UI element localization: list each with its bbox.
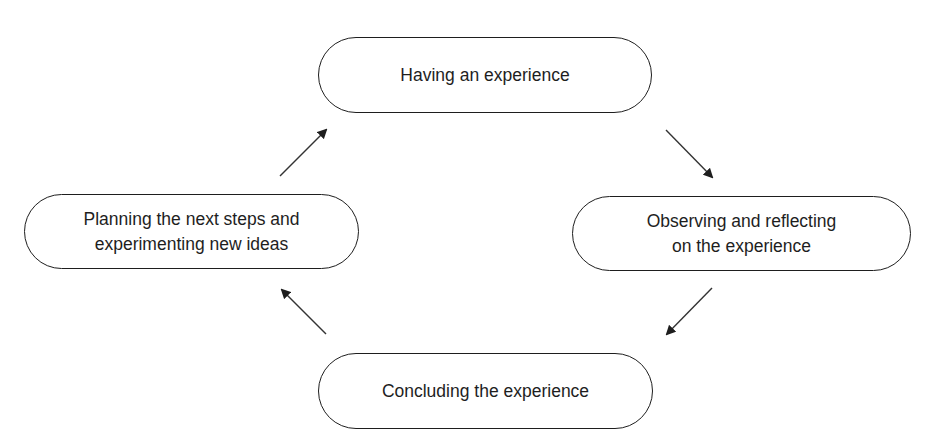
arrow-right-to-bottom: [667, 288, 712, 334]
arrow-top-to-right: [666, 130, 712, 177]
node-having-experience: Having an experience: [318, 37, 652, 113]
node-label: Concluding the experience: [382, 379, 589, 404]
node-concluding-experience: Concluding the experience: [318, 353, 653, 429]
arrow-bottom-to-left: [282, 290, 326, 334]
node-planning-next-steps: Planning the next steps and experimentin…: [24, 194, 359, 269]
node-label: Planning the next steps and experimentin…: [84, 207, 300, 257]
node-label: Observing and reflecting on the experien…: [647, 209, 837, 259]
node-label: Having an experience: [400, 63, 569, 88]
node-observing-reflecting: Observing and reflecting on the experien…: [572, 196, 911, 271]
arrow-left-to-top: [280, 130, 326, 176]
